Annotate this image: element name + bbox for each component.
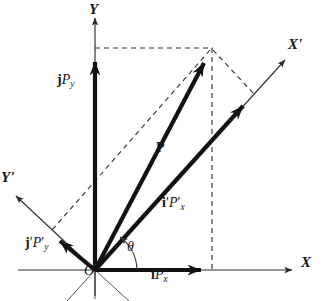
vector-label-iPx: iPx bbox=[151, 268, 168, 285]
theta-label: θ bbox=[127, 240, 134, 254]
vector-label-P: P bbox=[156, 141, 165, 155]
axis-label-x-prime: X' bbox=[288, 37, 302, 52]
origin-label: O bbox=[84, 264, 94, 278]
vector-label-jPy-prime: j′P′y bbox=[25, 236, 49, 253]
axis-label-y-prime: Y' bbox=[1, 170, 14, 185]
vector-label-iPx-prime: i′P′x bbox=[162, 196, 185, 213]
y-prime-negative-stub bbox=[95, 270, 129, 301]
vector-label-jPy: jPy bbox=[57, 73, 74, 90]
dash-p-to-ipx-prime bbox=[213, 50, 254, 94]
vectors-group bbox=[60, 62, 243, 270]
axis-label-y: Y bbox=[89, 2, 98, 17]
axis-label-x: X bbox=[301, 255, 311, 270]
vector-decomposition-figure: Y X X' Y' O θ P iPx jPy i′P′x j′P′y bbox=[0, 0, 322, 301]
negative-axis-stubs bbox=[67, 270, 129, 301]
